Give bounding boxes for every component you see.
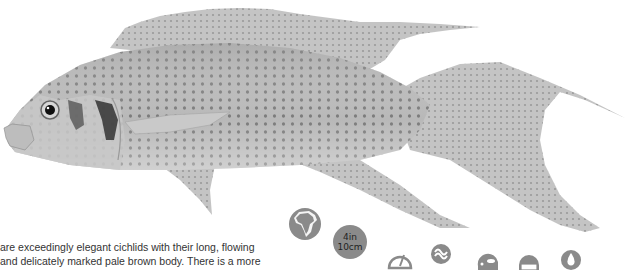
size-imperial: 4in [333,232,367,242]
fish-head-icon [476,252,500,270]
body-text-line: are exceedingly elegant cichlids with th… [0,240,330,254]
size-badge: 4in 10cm [333,225,367,259]
africa-globe-icon [287,206,323,242]
water-drop-icon [560,248,582,270]
body-text-line: and delicately marked pale brown body. T… [0,254,330,268]
swimming-zone-icon [430,243,452,265]
body-text: are exceedingly elegant cichlids with th… [0,240,330,268]
tank-icon [517,253,541,270]
fish-illustration [0,0,631,240]
gauge-icon [387,248,413,270]
size-metric: 10cm [333,242,367,252]
